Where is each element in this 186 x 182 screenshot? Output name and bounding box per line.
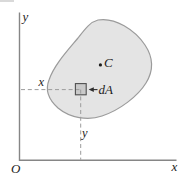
y-coordinate-label: y [80, 126, 88, 140]
y-axis-label: y [21, 9, 29, 24]
centroid-figure: y x O C dA x y [0, 0, 186, 182]
figure-canvas: y x O C dA x y [0, 0, 186, 182]
centroid-label: C [104, 55, 113, 70]
area-element-label: dA [99, 82, 114, 97]
centroid-dot [99, 63, 102, 66]
area-region-shape [47, 20, 151, 119]
scan-artifact-mark [0, 0, 14, 2]
origin-label: O [11, 161, 21, 176]
x-coordinate-label: x [38, 75, 45, 89]
x-axis-label: x [171, 159, 178, 174]
